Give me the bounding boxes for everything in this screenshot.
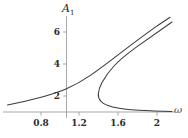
y-axis-label: A1: [62, 3, 74, 17]
x-tick-label-1-2: 1.2: [71, 119, 87, 128]
x-tick-label-1-6: 1.6: [110, 119, 126, 128]
y-tick-label-2: 2: [54, 92, 60, 101]
duffing-frequency-response-figure: A1 ω 6 4 2 0.8 1.2 1.6 2: [0, 0, 188, 138]
y-tick-label-6: 6: [54, 28, 60, 37]
y-tick-label-4: 4: [54, 60, 60, 69]
y-axis-label-subscript: 1: [70, 9, 74, 17]
x-tick-marks: [41, 112, 157, 116]
y-axis-label-base: A: [62, 2, 70, 15]
curve-upper-backbone-branch: [8, 17, 171, 105]
x-tick-label-2: 2: [154, 119, 160, 128]
curve-resonance-fold-branch: [98, 22, 172, 111]
y-tick-marks: [63, 32, 66, 96]
x-axis-label: ω: [174, 105, 182, 115]
x-tick-label-0-8: 0.8: [33, 119, 49, 128]
